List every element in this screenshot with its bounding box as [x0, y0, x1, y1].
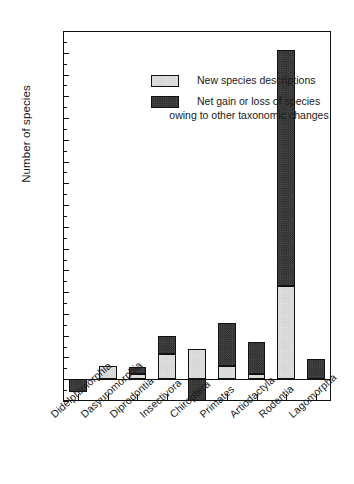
y-tick-minor-mark	[63, 281, 67, 282]
y-axis-title: Number of species	[20, 54, 32, 214]
bar-segment-net-gain-loss[interactable]	[218, 323, 236, 367]
y-tick-minor-mark	[63, 85, 67, 86]
y-tick-minor-mark	[63, 151, 67, 152]
plot-area: -200204060801001201401601802002202402602…	[63, 31, 331, 401]
bar-segment-net-gain-loss[interactable]	[307, 359, 325, 380]
legend-label-net-gain-loss-line2: owing to other taxonomic changes	[151, 109, 347, 123]
y-tick-minor-mark	[63, 42, 67, 43]
y-tick-minor-mark	[63, 303, 67, 304]
bar-segment-new-species[interactable]	[218, 366, 236, 379]
bar-segment-net-gain-loss[interactable]	[158, 336, 176, 355]
y-tick-minor-mark	[63, 260, 67, 261]
legend-label-new-species: New species descriptions	[197, 74, 351, 88]
y-tick-minor-mark	[63, 390, 67, 391]
bar-group[interactable]	[129, 31, 147, 401]
legend-label-net-gain-loss: Net gain or loss of species	[197, 95, 351, 109]
chart-figure: Number of species -200204060801001201401…	[0, 0, 354, 484]
chart-legend: New species descriptions Net gain or los…	[151, 74, 351, 127]
y-tick-minor-mark	[63, 129, 67, 130]
y-tick-minor-mark	[63, 172, 67, 173]
y-tick-minor-mark	[63, 216, 67, 217]
legend-item-net-gain-loss: Net gain or loss of species owing to oth…	[151, 95, 351, 122]
y-tick-minor-mark	[63, 238, 67, 239]
bar-group[interactable]	[99, 31, 117, 401]
y-tick-minor-mark	[63, 107, 67, 108]
bar-segment-new-species[interactable]	[188, 349, 206, 379]
bar-segment-net-gain-loss[interactable]	[248, 342, 266, 374]
bar-group[interactable]	[69, 31, 87, 401]
legend-item-new-species: New species descriptions	[151, 74, 351, 90]
y-tick-minor-mark	[63, 64, 67, 65]
legend-swatch-dark	[151, 96, 179, 108]
bar-segment-new-species[interactable]	[158, 354, 176, 379]
bar-segment-new-species[interactable]	[277, 286, 295, 380]
legend-swatch-light	[151, 75, 179, 87]
y-tick-minor-mark	[63, 347, 67, 348]
y-tick-minor-mark	[63, 368, 67, 369]
y-tick-minor-mark	[63, 325, 67, 326]
y-tick-minor-mark	[63, 194, 67, 195]
